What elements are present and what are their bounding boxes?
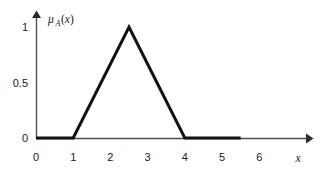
y-axis-title-subscript: A [55,19,61,28]
x-tick-label-1: 1 [70,151,76,163]
chart-figure: μ A (x) 1 0.5 0 0 1 2 3 4 5 6 x [0,0,325,170]
y-tick-label-0-5: 0.5 [13,77,28,89]
x-tick-label-3: 3 [145,151,151,163]
y-axis-title-mu: μ [47,13,54,26]
x-tick-label-5: 5 [219,151,225,163]
x-axis-title: x [294,152,301,164]
y-axis-title-argument: (x) [61,13,74,26]
y-tick-label-0: 0 [22,132,28,144]
y-tick-label-1: 1 [22,21,28,33]
plot-background [0,0,325,170]
x-tick-label-2: 2 [107,151,113,163]
membership-function-plot: μ A (x) 1 0.5 0 0 1 2 3 4 5 6 x [0,0,325,170]
x-tick-label-0: 0 [33,151,39,163]
x-tick-label-6: 6 [256,151,262,163]
x-tick-label-4: 4 [182,151,188,163]
